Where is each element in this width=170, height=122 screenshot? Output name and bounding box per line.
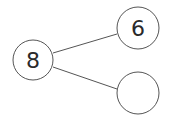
whole-value: 8 bbox=[26, 48, 40, 73]
connector-line-top bbox=[53, 34, 117, 53]
part-circle-top: 6 bbox=[117, 7, 159, 49]
connector-line-bottom bbox=[53, 67, 117, 89]
number-bond-diagram: 8 6 bbox=[0, 0, 170, 122]
part-circle-bottom[interactable] bbox=[117, 72, 159, 114]
whole-circle: 8 bbox=[13, 40, 53, 80]
part-value-top: 6 bbox=[131, 16, 145, 41]
